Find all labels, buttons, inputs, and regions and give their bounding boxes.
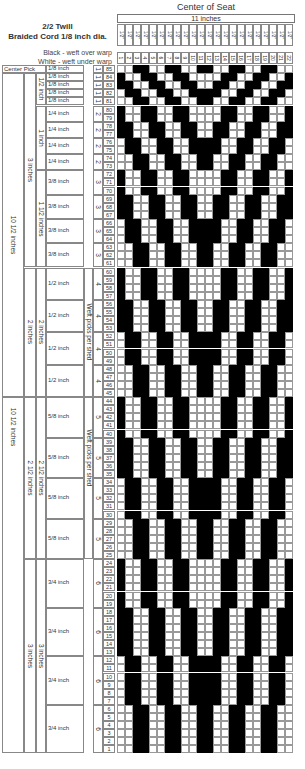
weave-cell	[117, 705, 125, 713]
weave-cell	[285, 243, 293, 251]
weave-cell	[173, 438, 181, 446]
weave-cell	[117, 575, 125, 583]
weave-cell	[269, 575, 277, 583]
weave-cell	[237, 737, 245, 745]
weave-cell	[213, 292, 221, 300]
weave-cell	[197, 324, 205, 332]
weave-cell	[237, 284, 245, 292]
weave-cell	[245, 559, 253, 567]
weave-cell	[133, 559, 141, 567]
weave-cell	[245, 316, 253, 324]
weave-cell	[261, 381, 269, 389]
weave-cell	[157, 357, 165, 365]
pick-number: 30	[103, 511, 115, 519]
weave-cell	[261, 227, 269, 235]
picks-per-shed: 6	[95, 582, 102, 586]
weave-cell	[261, 519, 269, 527]
weave-cell	[213, 600, 221, 608]
pick-number: 9	[103, 681, 115, 689]
weave-cell	[285, 673, 293, 681]
weave-cell	[117, 664, 125, 672]
pick-number: 38	[103, 446, 115, 454]
weave-cell	[173, 114, 181, 122]
weave-cell	[173, 729, 181, 737]
column-number: 21	[277, 52, 285, 64]
pick-number: 67	[103, 211, 115, 219]
weave-cell	[229, 616, 237, 624]
weave-cell	[165, 745, 173, 753]
weave-cell	[269, 235, 277, 243]
column-number-text: 22	[286, 55, 292, 61]
weave-cell	[245, 89, 253, 97]
weave-cell	[285, 454, 293, 462]
pick-number: 56	[103, 300, 115, 308]
weave-cell	[269, 721, 277, 729]
weave-cell	[157, 640, 165, 648]
weave-cell	[125, 268, 133, 276]
weave-cell	[205, 713, 213, 721]
weave-cell	[117, 332, 125, 340]
weave-cell	[237, 381, 245, 389]
weave-cell	[285, 357, 293, 365]
weave-cell	[221, 389, 229, 397]
weave-cell	[277, 130, 285, 138]
weave-cell	[141, 268, 149, 276]
weave-cell	[277, 300, 285, 308]
weave-cell	[133, 187, 141, 195]
weave-cell	[117, 170, 125, 178]
weave-cell	[237, 316, 245, 324]
weave-cell	[253, 535, 261, 543]
weave-cell	[221, 713, 229, 721]
weave-cell	[245, 373, 253, 381]
weave-cell	[213, 130, 221, 138]
weave-cell	[245, 300, 253, 308]
weave-cell	[133, 389, 141, 397]
pick-number: 78	[103, 122, 115, 130]
weave-cell	[189, 97, 197, 105]
weave-cell	[149, 203, 157, 211]
weave-cell	[117, 97, 125, 105]
weave-cell	[205, 178, 213, 186]
column-number: 3	[133, 52, 141, 64]
weave-cell	[117, 648, 125, 656]
weave-cell	[149, 502, 157, 510]
weave-cell	[125, 178, 133, 186]
weave-cell	[213, 146, 221, 154]
weave-cell	[261, 170, 269, 178]
column-number-text: 2	[126, 57, 132, 60]
weave-cell	[165, 737, 173, 745]
weave-cell	[229, 705, 237, 713]
weave-cell	[221, 138, 229, 146]
weave-cell	[245, 340, 253, 348]
weave-cell	[237, 721, 245, 729]
weave-cell	[285, 729, 293, 737]
weave-cell	[165, 608, 173, 616]
weave-cell	[221, 648, 229, 656]
weave-cell	[237, 575, 245, 583]
picks-per-shed: 2	[95, 128, 102, 132]
weave-cell	[181, 446, 189, 454]
weave-cell	[149, 340, 157, 348]
weave-cell	[285, 470, 293, 478]
weave-cell	[197, 268, 205, 276]
weave-cell	[125, 519, 133, 527]
weave-cell	[205, 292, 213, 300]
weave-cell	[221, 689, 229, 697]
weave-cell	[157, 332, 165, 340]
weave-cell	[245, 454, 253, 462]
column-width-label: 1/2"	[245, 24, 253, 46]
weave-cell	[269, 106, 277, 114]
weave-cell	[277, 729, 285, 737]
weave-cell	[189, 583, 197, 591]
weave-cell	[285, 535, 293, 543]
pick-number: 50	[103, 349, 115, 357]
weave-cell	[253, 349, 261, 357]
shed-size-label: 3/8 inch	[48, 178, 69, 184]
weave-cell	[157, 276, 165, 284]
weave-cell	[197, 438, 205, 446]
weave-cell	[205, 340, 213, 348]
weave-cell	[133, 219, 141, 227]
weave-cell	[253, 235, 261, 243]
weave-cell	[173, 300, 181, 308]
weave-cell	[125, 316, 133, 324]
